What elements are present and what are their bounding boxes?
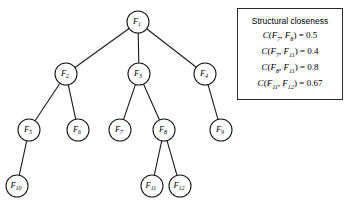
tree-node-f2[interactable]: F2 [55,63,77,85]
tree-edge [143,84,159,120]
legend-value: 0.67 [307,78,323,88]
tree-edge [138,33,139,63]
node-label-subscript: 9 [221,129,224,135]
node-label-subscript: 5 [29,129,32,135]
tree-node-f5[interactable]: F5 [18,119,40,141]
node-label-subscript: 12 [179,185,185,191]
node-label-subscript: 2 [66,73,69,79]
tree-node-f1[interactable]: F1 [127,11,149,33]
legend-equals: = [298,62,308,72]
tree-node-f9[interactable]: F9 [210,119,232,141]
node-label-subscript: 1 [138,21,141,27]
legend-value: 0.4 [307,46,318,56]
tree-edge [147,29,197,68]
tree-edge [208,85,218,120]
tree-node-f3[interactable]: F3 [128,63,150,85]
legend-title: Structural closeness [238,16,342,27]
tree-node-f7[interactable]: F7 [109,119,131,141]
legend-value: 0.5 [306,30,317,40]
tree-node-f8[interactable]: F8 [153,119,175,141]
legend-arg-a: F7 [270,46,279,56]
tree-edge [19,141,26,175]
legend-comma: , [279,46,284,56]
node-label-subscript: 4 [205,73,208,79]
legend-rows: C(F7, F8) = 0.5C(F7, F11) = 0.4C(F8, F11… [238,27,342,91]
legend-equals: = [296,30,306,40]
tree-node-f6[interactable]: F6 [67,119,89,141]
legend-equals: = [297,78,307,88]
tree-edge [75,28,129,67]
legend-formula-row: C(F11, F12) = 0.67 [238,75,342,91]
tree-node-f12[interactable]: F12 [169,175,191,197]
node-layer: F1F2F3F4F5F6F7F8F9F10F11F12 [6,11,232,197]
tree-edge [35,83,60,121]
structural-closeness-legend: Structural closeness C(F7, F8) = 0.5C(F7… [237,8,343,100]
tree-edge [167,141,177,176]
node-label-subscript: 3 [138,73,142,79]
legend-arg-a: F11 [267,78,278,88]
node-label-subscript: 10 [16,185,22,191]
legend-equals: = [298,46,308,56]
legend-formula-row: C(F7, F8) = 0.5 [238,27,342,43]
tree-diagram-figure: F1F2F3F4F5F6F7F8F9F10F11F12 Structural c… [0,0,350,203]
tree-node-f10[interactable]: F10 [6,175,28,197]
legend-arg-b: F11 [284,62,295,72]
legend-arg-b: F12 [282,78,294,88]
legend-arg-a: F8 [270,62,279,72]
tree-edge [68,85,75,119]
edge-layer [19,28,218,175]
node-label-subscript: 8 [164,129,167,135]
legend-arg-b: F11 [284,46,295,56]
tree-edge [154,141,161,175]
tree-node-f11[interactable]: F11 [141,175,163,197]
legend-formula-row: C(F7, F11) = 0.4 [238,43,342,59]
legend-formula-row: C(F8, F11) = 0.8 [238,59,342,75]
legend-comma: , [279,62,284,72]
node-label-subscript: 6 [78,129,81,135]
node-label-subscript: 11 [151,185,157,191]
legend-value: 0.8 [307,62,318,72]
tree-edge [124,84,136,119]
tree-node-f4[interactable]: F4 [194,63,216,85]
